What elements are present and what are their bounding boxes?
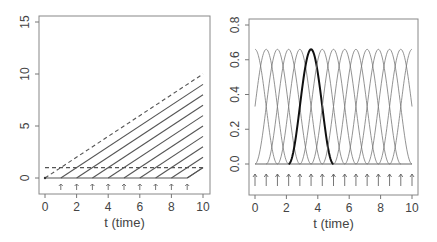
x-tick-label: 6 (136, 200, 143, 214)
figure: 0510150246810t (time) 0.00.20.40.60.8024… (0, 0, 437, 242)
right-panel: 0.00.20.40.60.80246810t (time) (228, 16, 419, 231)
series-ramp-2 (77, 95, 203, 178)
x-tick-label: 8 (377, 201, 384, 215)
y-tick-label: 0.4 (228, 86, 242, 103)
basis-curve (390, 49, 412, 164)
x-tick-label: 6 (346, 201, 353, 215)
x-tick-label: 4 (314, 201, 321, 215)
x-tick-label: 0 (252, 201, 259, 215)
y-tick-label: 0.2 (228, 121, 242, 138)
x-tick-label: 4 (105, 200, 112, 214)
x-tick-label: 0 (42, 200, 49, 214)
y-tick-label: 5 (18, 122, 32, 129)
x-axis-label: t (time) (104, 215, 144, 230)
origin-point (44, 177, 46, 179)
x-tick-label: 8 (168, 200, 175, 214)
y-tick-label: 10 (18, 67, 32, 81)
x-tick-label: 2 (283, 201, 290, 215)
series-ramp-1 (61, 84, 203, 178)
series-ramp-6 (140, 136, 203, 178)
x-tick-label: 10 (405, 201, 419, 215)
x-tick-label: 10 (196, 200, 210, 214)
series-ramp-9-tail (187, 168, 203, 178)
series-ramp-5 (124, 126, 203, 178)
x-axis-label: t (time) (313, 216, 353, 231)
x-tick-label: 2 (73, 200, 80, 214)
left-panel: 0510150246810t (time) (18, 15, 210, 230)
y-tick-label: 0.8 (228, 16, 242, 33)
y-tick-label: 0.0 (228, 155, 242, 172)
y-tick-label: 15 (18, 15, 32, 29)
y-tick-label: 0.6 (228, 51, 242, 68)
y-tick-label: 0 (18, 174, 32, 181)
series-ramp-4 (108, 116, 203, 178)
